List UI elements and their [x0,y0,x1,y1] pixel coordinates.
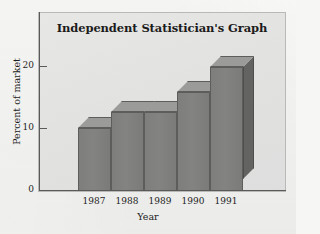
chart-panel: Independent Statistician's Graph [38,12,286,192]
chart-title: Independent Statistician's Graph [39,21,285,35]
